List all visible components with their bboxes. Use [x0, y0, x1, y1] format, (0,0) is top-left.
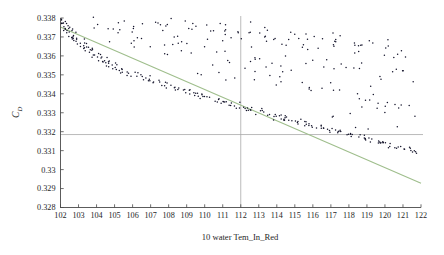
scatter-point — [361, 106, 363, 108]
scatter-point — [323, 128, 325, 130]
scatter-point — [181, 41, 183, 43]
scatter-point — [350, 136, 352, 138]
scatter-point — [112, 68, 114, 70]
scatter-point — [107, 28, 109, 30]
scatter-point — [308, 123, 310, 125]
scatter-point — [230, 37, 232, 39]
y-axis-title-subscript: D — [16, 107, 23, 113]
scatter-point — [309, 87, 311, 89]
scatter-point — [389, 143, 391, 145]
scatter-point — [333, 68, 335, 70]
scatter-point — [367, 128, 369, 130]
scatter-point — [339, 130, 341, 132]
scatter-point — [244, 108, 246, 110]
scatter-point — [218, 98, 220, 100]
scatter-point — [348, 133, 350, 135]
scatter-point — [97, 56, 99, 58]
scatter-point — [267, 114, 269, 116]
scatter-point — [164, 85, 166, 87]
scatter-point — [373, 94, 375, 96]
scatter-point — [61, 19, 63, 21]
scatter-point — [66, 30, 68, 32]
scatter-point — [382, 141, 384, 143]
y-tick-label: 0.331 — [37, 147, 55, 156]
scatter-point — [227, 60, 229, 62]
scatter-point — [330, 82, 332, 84]
scatter-point — [285, 55, 287, 57]
x-axis-title: 10 water Tem_In_Red — [202, 232, 279, 242]
scatter-point — [250, 21, 252, 23]
scatter-point — [91, 57, 93, 59]
scatter-point — [193, 92, 195, 94]
scatter-point — [279, 115, 281, 117]
scatter-point — [239, 101, 241, 103]
scatter-point — [119, 70, 121, 72]
scatter-point — [322, 38, 324, 40]
x-tick-label: 117 — [325, 211, 337, 220]
scatter-point — [397, 54, 399, 56]
scatter-point — [396, 69, 398, 71]
scatter-point — [206, 96, 208, 98]
y-tick-label: 0.337 — [37, 33, 55, 42]
scatter-point — [207, 38, 209, 40]
scatter-point — [397, 146, 399, 148]
scatter-point — [131, 42, 133, 44]
scatter-point — [273, 39, 275, 41]
scatter-point — [254, 71, 256, 73]
scatter-point — [284, 115, 286, 117]
x-tick-label: 116 — [307, 211, 319, 220]
scatter-point — [65, 21, 67, 23]
scatter-point — [269, 75, 271, 77]
scatter-point — [234, 77, 236, 79]
scatter-point — [305, 33, 307, 35]
scatter-point — [400, 104, 402, 106]
scatter-point — [238, 32, 240, 34]
scatter-point — [320, 125, 322, 127]
scatter-point — [372, 42, 374, 44]
scatter-point — [159, 81, 161, 83]
scatter-point — [177, 42, 179, 44]
scatter-point — [302, 82, 304, 84]
scatter-point — [243, 107, 245, 109]
scatter-point — [247, 107, 249, 109]
scatter-point — [67, 25, 69, 27]
scatter-point — [115, 62, 117, 64]
scatter-point — [364, 134, 366, 136]
scatter-point — [273, 119, 275, 121]
scatter-point — [104, 60, 106, 62]
scatter-point — [166, 82, 168, 84]
scatter-point — [371, 138, 373, 140]
scatter-point — [335, 129, 337, 131]
scatter-point — [73, 40, 75, 42]
scatter-point — [368, 137, 370, 139]
x-tick-label: 103 — [72, 211, 84, 220]
scatter-point — [263, 111, 265, 113]
x-tick-label: 109 — [181, 211, 193, 220]
scatter-point — [71, 37, 73, 39]
y-tick-label: 0.333 — [37, 109, 55, 118]
scatter-point — [219, 23, 221, 25]
scatter-point — [197, 93, 199, 95]
scatter-point — [317, 48, 319, 50]
scatter-point — [285, 44, 287, 46]
scatter-point — [248, 109, 250, 111]
scatter-point — [311, 125, 313, 127]
scatter-point — [398, 107, 400, 109]
scatter-point — [93, 27, 95, 29]
scatter-point — [297, 123, 299, 125]
scatter-point — [75, 32, 77, 34]
scatter-point — [316, 127, 318, 129]
scatter-point — [140, 74, 142, 76]
scatter-point — [250, 110, 252, 112]
x-tick-label: 110 — [199, 211, 211, 220]
scatter-point — [204, 96, 206, 98]
scatter-point — [143, 79, 145, 81]
scatter-point — [370, 86, 372, 88]
scatter-point — [229, 62, 231, 64]
scatter-point — [329, 130, 331, 132]
scatter-point — [225, 34, 227, 36]
scatter-point — [173, 36, 175, 38]
scatter-point — [97, 24, 99, 26]
scatter-point — [214, 100, 216, 102]
scatter-point — [333, 44, 335, 46]
